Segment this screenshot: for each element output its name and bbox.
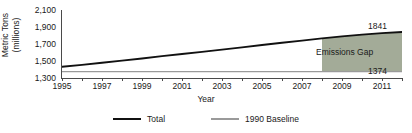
emissions-gap-label: Emissions Gap [316,47,373,57]
x-tick [202,78,203,81]
x-tick [362,78,363,81]
x-tick-label: 1997 [82,82,122,91]
y-tick-label: 1,700 [22,40,56,49]
y-axis-title-line-2: (millions) [11,0,22,71]
baseline-value-label: 1374 [368,66,387,76]
x-tick [402,78,403,81]
legend-item-total[interactable]: Total [113,114,165,124]
legend-item-1990-baseline[interactable]: 1990 Baseline [211,114,299,124]
x-tick-label: 2011 [362,82,402,91]
x-tick [282,78,283,81]
x-tick [82,78,83,81]
y-axis-title-line-1: Metric Tons [0,0,11,71]
chart-svg [62,10,402,78]
legend-swatch-total-icon [113,118,141,120]
x-tick [122,78,123,81]
x-tick-label: 2001 [162,82,202,91]
x-tick [322,78,323,81]
legend-label-total: Total [147,114,165,124]
x-axis-title: Year [0,94,412,104]
x-tick [162,78,163,81]
y-tick-label: 2,100 [22,6,56,15]
legend-swatch-baseline-icon [211,118,239,119]
x-tick-label: 1995 [42,82,82,91]
x-tick-label: 2003 [202,82,242,91]
y-tick-label: 1,900 [22,23,56,32]
chart-legend: Total 1990 Baseline [0,110,412,128]
legend-label-1990-baseline: 1990 Baseline [245,114,299,124]
x-axis-line [61,78,402,79]
emissions-gap-chart: Metric Tons (millions) 2,100 1,900 1,700… [0,0,412,133]
x-tick-label: 2005 [242,82,282,91]
x-tick-label: 2009 [322,82,362,91]
x-tick [242,78,243,81]
total-endpoint-value-label: 1841 [368,21,387,31]
x-tick-label: 2007 [282,82,322,91]
plot-area [62,10,402,78]
x-tick-label: 1999 [122,82,162,91]
y-tick-label: 1,500 [22,57,56,66]
